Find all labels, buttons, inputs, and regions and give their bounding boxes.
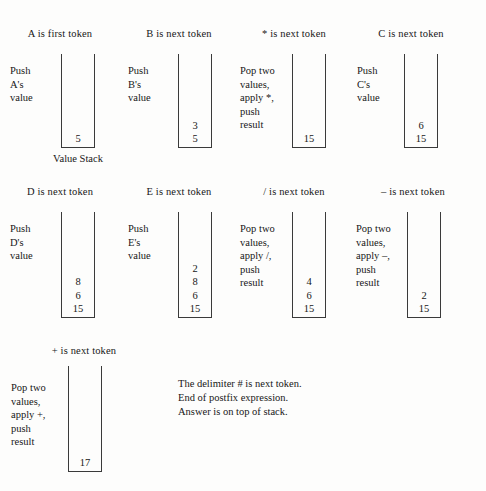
value-stack-2: 3 5 [178, 54, 212, 148]
value-stack-9: 17 [68, 366, 102, 472]
desc-line: result [240, 276, 275, 290]
step-description-9: Pop two values, apply +, push result [11, 381, 46, 449]
step-panel-9: + is next token Pop two values, apply +,… [0, 345, 130, 485]
stack-cell: 17 [69, 456, 101, 469]
desc-line: Push [128, 222, 151, 236]
note-line: The delimiter # is next token. [178, 377, 302, 391]
stack-cell: 2 [408, 289, 440, 302]
step-caption-6: E is next token [147, 186, 212, 197]
stack-cell: 6 [62, 289, 94, 302]
value-stack-label: Value Stack [53, 153, 103, 164]
desc-line: apply *, [240, 91, 275, 105]
stack-cell: 15 [293, 302, 325, 315]
step-caption-1: A is first token [28, 28, 93, 39]
value-stack-8: 2 15 [407, 212, 441, 318]
desc-line: values, [240, 78, 275, 92]
desc-line: values, [240, 236, 275, 250]
note-line: End of postfix expression. [178, 391, 302, 405]
stack-cell: 2 [179, 262, 211, 275]
stack-cell: 4 [293, 275, 325, 288]
step-description-6: Push E's value [128, 222, 151, 263]
stack-cell: 8 [62, 275, 94, 288]
step-description-8: Pop two values, apply –, push result [356, 222, 391, 290]
desc-line: B's [128, 78, 151, 92]
step-caption-9: + is next token [52, 345, 116, 356]
desc-line: result [240, 118, 275, 132]
stack-cell: 15 [293, 132, 325, 145]
value-stack-5: 8 6 15 [61, 212, 95, 318]
desc-line: value [128, 91, 151, 105]
step-caption-7: / is next token [263, 186, 324, 197]
step-description-4: Push C's value [357, 64, 380, 105]
step-caption-5: D is next token [27, 186, 93, 197]
step-caption-8: – is next token [381, 186, 445, 197]
desc-line: Pop two [11, 381, 46, 395]
desc-line: result [11, 435, 46, 449]
desc-line: value [128, 249, 151, 263]
step-panel-2: B is next token Push B's value 3 5 [118, 28, 238, 168]
desc-line: E's [128, 236, 151, 250]
step-description-7: Pop two values, apply /, push result [240, 222, 275, 290]
step-description-2: Push B's value [128, 64, 151, 105]
note-line: Answer is on top of stack. [178, 405, 302, 419]
step-description-5: Push D's value [10, 222, 33, 263]
desc-line: values, [356, 236, 391, 250]
step-caption-3: * is next token [262, 28, 326, 39]
stack-cell: 15 [405, 132, 437, 145]
desc-line: D's [10, 236, 33, 250]
desc-line: Push [357, 64, 380, 78]
postfix-evaluation-figure: A is first token Push A's value 5 Value … [0, 0, 486, 491]
value-stack-1: 5 [61, 54, 95, 148]
desc-line: result [356, 276, 391, 290]
step-description-1: Push A's value [10, 64, 33, 105]
step-description-3: Pop two values, apply *, push result [240, 64, 275, 132]
desc-line: push [240, 263, 275, 277]
step-panel-7: / is next token Pop two values, apply /,… [232, 186, 352, 326]
stack-cell: 15 [408, 302, 440, 315]
stack-cell: 5 [62, 132, 94, 145]
desc-line: apply +, [11, 408, 46, 422]
value-stack-3: 15 [292, 54, 326, 148]
desc-line: Pop two [356, 222, 391, 236]
value-stack-7: 4 6 15 [292, 212, 326, 318]
desc-line: Push [10, 222, 33, 236]
value-stack-4: 6 15 [404, 54, 438, 148]
step-panel-1: A is first token Push A's value 5 Value … [0, 28, 120, 168]
stack-cell: 15 [62, 302, 94, 315]
desc-line: Push [10, 64, 33, 78]
desc-line: Pop two [240, 64, 275, 78]
desc-line: values, [11, 395, 46, 409]
desc-line: value [10, 91, 33, 105]
desc-line: push [356, 263, 391, 277]
desc-line: Pop two [240, 222, 275, 236]
step-caption-4: C is next token [378, 28, 444, 39]
desc-line: Push [128, 64, 151, 78]
desc-line: push [240, 105, 275, 119]
desc-line: C's [357, 78, 380, 92]
desc-line: value [10, 249, 33, 263]
stack-cell: 6 [293, 289, 325, 302]
value-stack-6: 2 8 6 15 [178, 212, 212, 318]
stack-cell: 15 [179, 302, 211, 315]
step-panel-3: * is next token Pop two values, apply *,… [232, 28, 352, 168]
step-panel-6: E is next token Push E's value 2 8 6 15 [118, 186, 238, 326]
desc-line: apply /, [240, 249, 275, 263]
desc-line: apply –, [356, 249, 391, 263]
desc-line: value [357, 91, 380, 105]
stack-cell: 6 [179, 289, 211, 302]
step-panel-5: D is next token Push D's value 8 6 15 [0, 186, 120, 326]
desc-line: push [11, 422, 46, 436]
step-caption-2: B is next token [146, 28, 212, 39]
desc-line: A's [10, 78, 33, 92]
end-of-expression-note: The delimiter # is next token. End of po… [178, 377, 302, 420]
stack-cell: 3 [179, 119, 211, 132]
stack-cell: 5 [179, 132, 211, 145]
stack-cell: 8 [179, 275, 211, 288]
step-panel-8: – is next token Pop two values, apply –,… [345, 186, 470, 326]
stack-cell: 6 [405, 119, 437, 132]
step-panel-4: C is next token Push C's value 6 15 [345, 28, 470, 168]
